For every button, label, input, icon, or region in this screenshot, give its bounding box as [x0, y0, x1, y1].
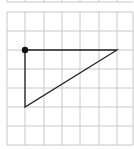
top-grid-strip — [7, 0, 133, 2]
vertex-point — [22, 47, 28, 53]
grid-diagram — [0, 0, 134, 149]
right-triangle — [25, 50, 117, 107]
